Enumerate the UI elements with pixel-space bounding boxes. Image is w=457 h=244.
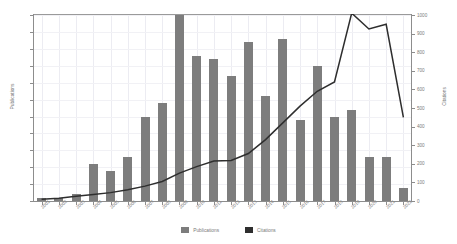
legend-item-citations[interactable]: Citations — [245, 227, 276, 233]
legend-swatch-publications — [181, 227, 189, 233]
citations-line-path — [42, 14, 404, 199]
y-tick-right — [412, 182, 415, 183]
y-axis-label-right: 300 — [417, 143, 425, 148]
right-axis-title: Citations — [442, 67, 447, 127]
legend-swatch-citations — [245, 227, 253, 233]
y-axis-label-right: 0 — [417, 199, 420, 204]
y-tick-right — [412, 89, 415, 90]
y-axis-label-right: 900 — [417, 31, 425, 36]
y-tick-right — [412, 34, 415, 35]
y-tick-right — [412, 15, 415, 16]
y-axis-label-right: 800 — [417, 50, 425, 55]
y-axis-label-right: 600 — [417, 87, 425, 92]
y-tick-right — [412, 71, 415, 72]
y-axis-label-right: 100 — [417, 180, 425, 185]
legend-label-publications: Publications — [193, 228, 219, 233]
y-tick-right — [412, 108, 415, 109]
y-tick-right — [412, 127, 415, 128]
legend-item-publications[interactable]: Publications — [181, 227, 219, 233]
y-tick-right — [412, 145, 415, 146]
publications-citations-chart: 2001200220032004200520062007200820092010… — [0, 0, 457, 244]
left-axis-title: Publications — [10, 67, 15, 127]
y-tick-right — [412, 201, 415, 202]
y-tick-right — [412, 52, 415, 53]
chart-legend: Publications Citations — [0, 224, 457, 236]
y-tick-right — [412, 164, 415, 165]
y-axis-label-right: 200 — [417, 161, 425, 166]
y-axis-label-right: 1000 — [417, 13, 427, 18]
y-axis-label-right: 700 — [417, 68, 425, 73]
line-citations — [33, 14, 412, 202]
legend-label-citations: Citations — [257, 228, 276, 233]
y-axis-label-right: 500 — [417, 106, 425, 111]
y-axis-label-right: 400 — [417, 124, 425, 129]
